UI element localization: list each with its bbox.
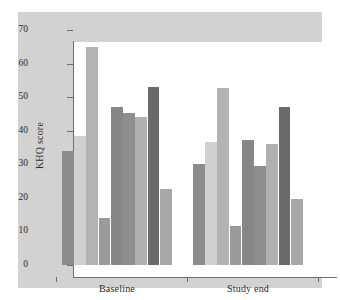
bar (291, 199, 303, 265)
bar (111, 107, 123, 265)
bar (205, 142, 217, 265)
y-tick-mark (67, 64, 73, 65)
y-tick-mark (67, 97, 73, 98)
bar (123, 113, 135, 265)
y-axis-title: KHQ score (34, 111, 45, 181)
bar (86, 47, 98, 265)
bar (160, 189, 172, 265)
y-tick-label: 60 (19, 59, 29, 68)
chart-panel: 010203040506070 BaselineStudy end KHQ sc… (18, 12, 322, 288)
y-tick-mark (67, 131, 73, 132)
y-tick-label: 50 (19, 92, 29, 101)
y-tick-mark (67, 265, 73, 266)
x-tick-mark (318, 277, 319, 282)
y-tick-label: 10 (19, 226, 29, 235)
y-tick-label: 40 (19, 126, 29, 135)
bar (99, 218, 111, 265)
chart-figure: 010203040506070 BaselineStudy end KHQ sc… (0, 0, 340, 300)
x-tick-mark (187, 277, 188, 282)
x-group-label: Baseline (62, 283, 172, 294)
bar (74, 136, 86, 265)
bar (62, 151, 74, 265)
y-tick-label: 0 (23, 260, 28, 269)
y-tick-label: 70 (19, 25, 29, 34)
bar (148, 87, 160, 265)
bar (230, 226, 242, 265)
bar (242, 140, 254, 265)
bar (193, 164, 205, 265)
x-group-label: Study end (193, 283, 303, 294)
y-tick-mark (67, 30, 73, 31)
y-tick-label: 20 (19, 193, 29, 202)
bar (217, 88, 229, 265)
y-tick-label: 30 (19, 159, 29, 168)
x-axis-line (73, 277, 337, 278)
bar (254, 166, 266, 265)
bar (279, 107, 291, 265)
x-tick-mark (56, 277, 57, 282)
bar (135, 117, 147, 265)
bar (266, 144, 278, 265)
